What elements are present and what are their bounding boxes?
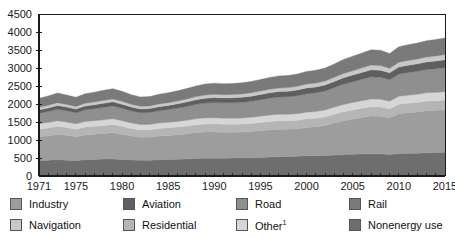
- y-tick-label-3000: 3000: [8, 62, 32, 74]
- x-tick-label-1971: 1971: [27, 180, 51, 190]
- nonenergy-use-color-swatch: [349, 219, 361, 231]
- rail-color-swatch: [349, 198, 361, 210]
- residential-color-swatch: [123, 219, 135, 231]
- y-tick-label-3500: 3500: [8, 44, 32, 56]
- y-tick-labels: 050010001500200025003000350040004500: [8, 8, 32, 182]
- y-tick-label-4500: 4500: [8, 8, 32, 20]
- y-tick-label-1500: 1500: [8, 116, 32, 128]
- legend-label-aviation: Aviation: [142, 198, 181, 210]
- legend-row-2: Navigation Residential Other1 Nonenergy …: [10, 214, 450, 235]
- legend-label-road: Road: [255, 198, 281, 210]
- aviation-color-swatch: [123, 198, 135, 210]
- legend-item-industry[interactable]: Industry: [10, 193, 123, 214]
- plot-area: 050010001500200025003000350040004500 197…: [0, 0, 455, 190]
- chart-legend: Industry Aviation Road Rail Navigation: [10, 193, 450, 238]
- other-color-swatch: [236, 219, 248, 231]
- legend-label-navigation: Navigation: [29, 219, 81, 231]
- x-tick-labels: 1971197519801985199019952000200520102015: [27, 180, 455, 190]
- x-tick-label-2005: 2005: [340, 180, 364, 190]
- legend-label-residential: Residential: [142, 219, 196, 231]
- legend-item-residential[interactable]: Residential: [123, 214, 236, 235]
- y-tick-label-2000: 2000: [8, 98, 32, 110]
- chart-svg: 050010001500200025003000350040004500 197…: [0, 0, 455, 190]
- legend-item-road[interactable]: Road: [236, 193, 349, 214]
- legend-other-footnote-marker: 1: [283, 219, 287, 226]
- y-tick-label-2500: 2500: [8, 80, 32, 92]
- x-tick-label-1985: 1985: [156, 180, 180, 190]
- legend-label-industry: Industry: [29, 198, 68, 210]
- x-tick-label-1990: 1990: [202, 180, 226, 190]
- legend-label-nonenergy-use: Nonenergy use: [368, 219, 443, 231]
- x-tick-label-1995: 1995: [248, 180, 272, 190]
- legend-label-other: Other1: [255, 217, 286, 232]
- legend-item-other[interactable]: Other1: [236, 214, 349, 235]
- legend-label-rail: Rail: [368, 198, 387, 210]
- x-tick-label-2015: 2015: [433, 180, 455, 190]
- legend-item-navigation[interactable]: Navigation: [10, 214, 123, 235]
- legend-label-other-text: Other: [255, 220, 283, 232]
- navigation-color-swatch: [10, 219, 22, 231]
- legend-item-aviation[interactable]: Aviation: [123, 193, 236, 214]
- industry-color-swatch: [10, 198, 22, 210]
- x-tick-label-1980: 1980: [110, 180, 134, 190]
- x-tick-label-2010: 2010: [387, 180, 411, 190]
- legend-item-nonenergy-use[interactable]: Nonenergy use: [349, 214, 455, 235]
- stacked-area-chart: 050010001500200025003000350040004500 197…: [0, 0, 455, 238]
- x-tick-label-2000: 2000: [294, 180, 318, 190]
- road-color-swatch: [236, 198, 248, 210]
- y-tick-label-500: 500: [14, 152, 32, 164]
- x-tick-label-1975: 1975: [64, 180, 88, 190]
- legend-row-1: Industry Aviation Road Rail: [10, 193, 450, 214]
- legend-item-rail[interactable]: Rail: [349, 193, 455, 214]
- area-series-group: [39, 38, 445, 176]
- y-tick-label-4000: 4000: [8, 26, 32, 38]
- y-tick-label-1000: 1000: [8, 134, 32, 146]
